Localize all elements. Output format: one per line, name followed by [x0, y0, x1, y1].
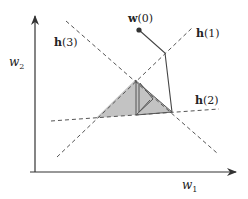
start-point-label: w(0) — [127, 12, 153, 25]
hyperplane-h2-label: h(2) — [195, 94, 219, 107]
y-axis-label: w2 — [9, 55, 24, 71]
hyperplane-h3 — [66, 21, 217, 153]
x-axis-label: w1 — [182, 178, 197, 194]
diagram-canvas: w(0) h(1) h(3) h(2) w2 w1 — [0, 0, 248, 199]
hyperplane-h1-label: h(1) — [196, 27, 220, 40]
start-point-marker — [136, 27, 141, 32]
hyperplane-h3-label: h(3) — [54, 36, 78, 49]
feasible-region — [96, 80, 172, 118]
